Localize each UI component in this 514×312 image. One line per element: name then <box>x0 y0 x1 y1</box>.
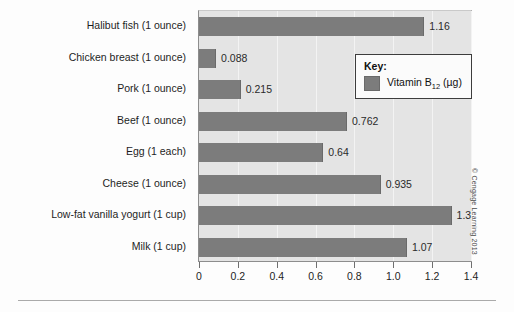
category-label: Beef (1 ounce) <box>0 105 192 137</box>
bar-value-label: 1.07 <box>412 238 432 257</box>
x-tick-label: 1.2 <box>425 270 440 282</box>
bar-row: 1.07 <box>199 232 471 264</box>
bar-row: 0.935 <box>199 169 471 201</box>
x-tick-mark <box>354 262 355 268</box>
legend-box: Key: Vitamin B12 (µg) <box>355 54 472 99</box>
x-tick-mark <box>316 262 317 268</box>
x-axis: 00.20.40.60.81.01.21.4 <box>198 262 472 288</box>
x-tick-mark <box>238 262 239 268</box>
x-tick-mark <box>277 262 278 268</box>
copyright-credit: © Cengage Learning 2013 <box>471 168 478 255</box>
bar <box>199 206 452 225</box>
bar-value-label: 1.16 <box>429 17 449 36</box>
bar <box>199 175 381 194</box>
bar-row: 1.3 <box>199 200 471 232</box>
x-tick-label: 1.4 <box>464 270 479 282</box>
x-tick-label: 1.0 <box>386 270 401 282</box>
legend-title: Key: <box>364 60 462 72</box>
category-label: Pork (1 ounce) <box>0 73 192 105</box>
bar <box>199 238 407 257</box>
bar <box>199 80 241 99</box>
bar-value-label: 1.3 <box>457 206 472 225</box>
bar-value-label: 0.088 <box>221 49 247 68</box>
x-tick-label: 0.4 <box>269 270 284 282</box>
x-tick-label: 0 <box>196 270 202 282</box>
plot-area: 1.160.0880.2150.7620.640.9351.31.07 <box>198 10 472 262</box>
category-label: Chicken breast (1 ounce) <box>0 42 192 74</box>
bar-value-label: 0.762 <box>352 112 378 131</box>
category-axis-labels: Halibut fish (1 ounce)Chicken breast (1 … <box>0 10 192 262</box>
category-label: Milk (1 cup) <box>0 231 192 263</box>
category-label: Halibut fish (1 ounce) <box>0 10 192 42</box>
legend-entry-vitamin-b12: Vitamin B12 (µg) <box>364 76 462 91</box>
x-tick-mark <box>199 262 200 268</box>
category-label: Egg (1 each) <box>0 136 192 168</box>
bar-value-label: 0.215 <box>246 80 272 99</box>
legend-entry-label: Vitamin B12 (µg) <box>387 76 462 91</box>
x-tick-label: 0.6 <box>308 270 323 282</box>
vitamin-b12-bar-chart-figure: Halibut fish (1 ounce)Chicken breast (1 … <box>0 0 514 312</box>
category-label: Cheese (1 ounce) <box>0 168 192 200</box>
bar <box>199 49 216 68</box>
bar <box>199 143 323 162</box>
bar-value-label: 0.935 <box>386 175 412 194</box>
x-tick-label: 0.8 <box>347 270 362 282</box>
bar-row: 0.762 <box>199 106 471 138</box>
legend-swatch-icon <box>364 76 380 91</box>
bar <box>199 112 347 131</box>
bar-value-label: 0.64 <box>328 143 348 162</box>
bottom-divider <box>18 300 496 301</box>
legend-subscript: 12 <box>432 82 440 91</box>
bar <box>199 17 424 36</box>
x-tick-mark <box>471 262 472 268</box>
x-tick-mark <box>393 262 394 268</box>
bar-row: 1.16 <box>199 11 471 43</box>
x-tick-label: 0.2 <box>231 270 246 282</box>
x-tick-mark <box>432 262 433 268</box>
category-label: Low-fat vanilla yogurt (1 cup) <box>0 199 192 231</box>
bar-row: 0.64 <box>199 137 471 169</box>
